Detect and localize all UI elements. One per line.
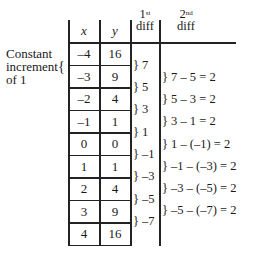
cell-y: 16 — [100, 223, 130, 245]
cell-y: 4 — [100, 88, 130, 110]
first-diff-value: } –1 — [133, 146, 155, 162]
cell-x: 4 — [69, 223, 99, 245]
first-diff-value: } –5 — [133, 191, 155, 207]
first-diff-value: } –7 — [133, 213, 155, 229]
label-line-3: of 1 — [6, 72, 27, 87]
first-diff-header: 1st diff — [131, 8, 159, 32]
first-diff-value: } 3 — [133, 101, 148, 117]
cell-y: 0 — [100, 133, 130, 155]
second-diff-value: } 5 – 3 = 2 — [162, 91, 216, 107]
cell-x: –4 — [69, 43, 99, 65]
first-diff-value: } 7 — [133, 57, 148, 73]
second-diff-value: } 7 – 5 = 2 — [162, 69, 216, 85]
first-diff-header-sup: st — [146, 9, 151, 17]
left-brace-icon: { — [58, 59, 65, 74]
cell-x: 2 — [69, 178, 99, 200]
second-diff-header: 2nd diff — [166, 8, 206, 32]
header-y: y — [100, 20, 130, 42]
first-diff-right-border — [159, 20, 161, 246]
cell-y: 4 — [100, 178, 130, 200]
first-diff-value: } 5 — [133, 79, 148, 95]
second-diff-value: } –3 – (–5) = 2 — [162, 180, 237, 196]
cell-x: –2 — [69, 88, 99, 110]
second-diff-value: } 3 – 1 = 2 — [162, 113, 216, 129]
second-diff-value: } 1 – (–1) = 2 — [162, 136, 230, 152]
constant-increment-label-line3: of 1 — [6, 73, 27, 86]
cell-y: 9 — [100, 66, 130, 88]
cell-x: 0 — [69, 133, 99, 155]
cell-y: 1 — [100, 111, 130, 133]
cell-x: 3 — [69, 201, 99, 223]
second-diff-value: } –1 – (–3) = 2 — [162, 158, 237, 174]
second-diff-header-sup: nd — [186, 9, 193, 17]
cell-y: 1 — [100, 156, 130, 178]
first-diff-header-text: diff — [131, 20, 159, 32]
cell-x: 1 — [69, 156, 99, 178]
second-diff-value: } –5 – (–7) = 2 — [162, 202, 237, 218]
second-diff-header-text: diff — [166, 20, 206, 32]
cell-y: 9 — [100, 201, 130, 223]
first-diff-value: } –3 — [133, 168, 155, 184]
cell-x: –3 — [69, 66, 99, 88]
header-x: x — [69, 20, 99, 42]
cell-x: –1 — [69, 111, 99, 133]
first-diff-value: } 1 — [133, 124, 148, 140]
cell-y: 16 — [100, 43, 130, 65]
